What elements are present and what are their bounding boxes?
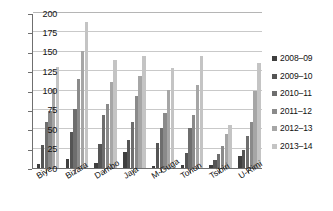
bar-cluster	[94, 14, 117, 168]
bars-layer	[33, 14, 262, 168]
bar	[85, 22, 88, 168]
y-tick-mark	[28, 33, 32, 34]
bar-cluster	[238, 14, 261, 168]
y-tick-mark	[28, 53, 32, 54]
y-tick-label: 50	[31, 126, 57, 135]
bar	[228, 125, 231, 168]
legend-swatch-icon	[272, 144, 277, 149]
bar	[142, 56, 145, 168]
legend-label: 2012–13	[280, 124, 312, 133]
legend-item[interactable]: 2011–12	[272, 103, 333, 121]
bar	[257, 63, 260, 168]
bar-cluster	[152, 14, 175, 168]
y-tick-mark	[28, 14, 32, 15]
legend-label: 2009–10	[280, 72, 312, 81]
y-tick-mark	[28, 150, 32, 151]
bar	[200, 56, 203, 168]
y-tick-mark	[28, 72, 32, 73]
bar	[171, 68, 174, 168]
gridline	[33, 12, 262, 13]
y-tick-mark	[28, 92, 32, 93]
legend-item[interactable]: 2008–09	[272, 50, 333, 68]
y-tick-label: 25	[31, 145, 57, 154]
y-tick-label: 100	[31, 87, 57, 96]
legend-item[interactable]: 2009–10	[272, 68, 333, 86]
legend-item[interactable]: 2012–13	[272, 120, 333, 138]
legend: 2008–092009–102010–112011–122012–132013–…	[272, 50, 333, 155]
legend-swatch-icon	[272, 109, 277, 114]
legend-swatch-icon	[272, 74, 277, 79]
bar-cluster	[123, 14, 146, 168]
y-tick-label: 200	[31, 10, 57, 19]
plot-area	[32, 14, 262, 169]
legend-swatch-icon	[272, 56, 277, 61]
legend-label: 2010–11	[280, 89, 312, 98]
legend-label: 2011–12	[280, 107, 312, 116]
y-tick-label: 75	[31, 106, 57, 115]
bar-cluster	[209, 14, 232, 168]
bar-cluster	[181, 14, 204, 168]
y-tick-mark	[28, 169, 32, 170]
y-tick-mark	[28, 111, 32, 112]
legend-item[interactable]: 2013–14	[272, 138, 333, 156]
legend-item[interactable]: 2010–11	[272, 85, 333, 103]
y-tick-mark	[28, 130, 32, 131]
y-tick-label: 150	[31, 48, 57, 57]
y-tick-label: 125	[31, 68, 57, 77]
bar-cluster	[66, 14, 89, 168]
legend-label: 2013–14	[280, 142, 312, 151]
legend-label: 2008–09	[280, 54, 312, 63]
legend-swatch-icon	[272, 126, 277, 131]
y-tick-label: 175	[31, 29, 57, 38]
legend-swatch-icon	[272, 91, 277, 96]
bar	[113, 60, 116, 169]
bar-chart: 0255075100125150175200 BiyeBizaraDamboJa…	[0, 0, 333, 211]
